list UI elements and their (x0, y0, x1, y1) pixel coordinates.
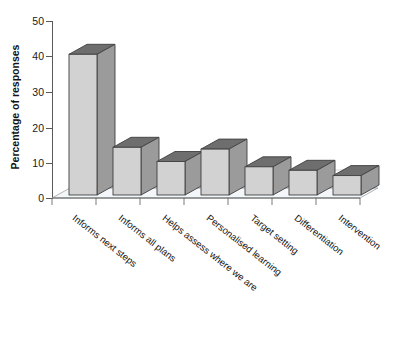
bar-front-face (113, 147, 141, 195)
bar-front-face (289, 170, 317, 195)
bars-layer (0, 0, 396, 337)
bar-front-face (245, 167, 273, 195)
bar-side-face (97, 44, 115, 195)
bar-personalised-learning[interactable] (201, 139, 247, 195)
bar-side-face (141, 137, 159, 195)
bar-informs-all-plans[interactable] (113, 137, 159, 195)
bar-chart-figure: Percentage of responses 50 40 30 20 10 0 (0, 0, 396, 337)
bar-differentiation[interactable] (289, 160, 335, 195)
bar-target-setting[interactable] (245, 157, 291, 195)
bar-front-face (157, 162, 185, 196)
bar-helps-assess-where-we-are[interactable] (157, 152, 203, 196)
bar-informs-next-steps[interactable] (69, 44, 115, 195)
bar-front-face (69, 54, 97, 195)
bar-front-face (333, 176, 361, 195)
bar-front-face (201, 149, 229, 195)
bar-intervention[interactable] (333, 166, 379, 195)
